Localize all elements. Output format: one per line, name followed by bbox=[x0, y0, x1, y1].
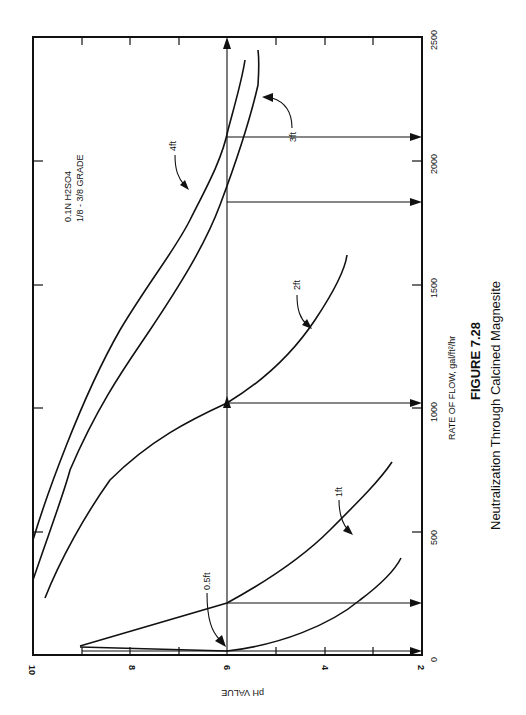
label-3ft: 3ft bbox=[262, 93, 298, 142]
svg-text:500: 500 bbox=[429, 530, 439, 545]
svg-text:4ft: 4ft bbox=[168, 140, 178, 151]
svg-text:10: 10 bbox=[27, 665, 37, 675]
svg-text:1ft: 1ft bbox=[334, 486, 344, 497]
crossing-guides bbox=[82, 133, 422, 655]
svg-text:6: 6 bbox=[222, 665, 232, 670]
ph-axis-title: pH VALUE bbox=[221, 688, 264, 698]
ph6-reference-line bbox=[223, 37, 231, 655]
svg-text:1000: 1000 bbox=[429, 402, 439, 422]
curve-0.5ft bbox=[80, 558, 401, 651]
svg-text:1500: 1500 bbox=[429, 278, 439, 298]
chart-canvas: 4ft 3ft 2ft 1ft 0.5ft 0.1N H2SO4 1/8 - 3… bbox=[0, 0, 526, 715]
svg-text:2500: 2500 bbox=[429, 30, 439, 50]
label-2ft: 2ft bbox=[292, 279, 312, 329]
svg-text:1/8 - 3/8 GRADE: 1/8 - 3/8 GRADE bbox=[75, 154, 85, 222]
figure-number: FIGURE 7.28 bbox=[468, 322, 483, 400]
conditions-annotation: 0.1N H2SO4 1/8 - 3/8 GRADE bbox=[63, 154, 85, 222]
svg-text:2000: 2000 bbox=[429, 154, 439, 174]
svg-text:8: 8 bbox=[127, 665, 137, 670]
curve-3ft bbox=[33, 50, 259, 580]
label-4ft: 4ft bbox=[168, 140, 189, 190]
svg-text:3ft: 3ft bbox=[288, 131, 298, 142]
curve-1ft bbox=[80, 462, 392, 646]
flow-tick-labels: 0 500 1000 1500 2000 2500 bbox=[429, 30, 439, 662]
ph-tick-labels: 10 8 6 4 2 bbox=[27, 665, 426, 675]
svg-text:2: 2 bbox=[416, 665, 426, 670]
svg-text:0.5ft: 0.5ft bbox=[202, 572, 212, 590]
curve-4ft bbox=[33, 60, 245, 540]
svg-text:4: 4 bbox=[320, 665, 330, 670]
svg-text:0: 0 bbox=[429, 657, 439, 662]
figure-caption: Neutralization Through Calcined Magnesit… bbox=[488, 281, 503, 530]
svg-text:0.1N H2SO4: 0.1N H2SO4 bbox=[63, 171, 73, 222]
svg-text:2ft: 2ft bbox=[292, 279, 302, 290]
flow-axis-title: RATE OF FLOW, gal/ft²/hr bbox=[447, 336, 457, 440]
